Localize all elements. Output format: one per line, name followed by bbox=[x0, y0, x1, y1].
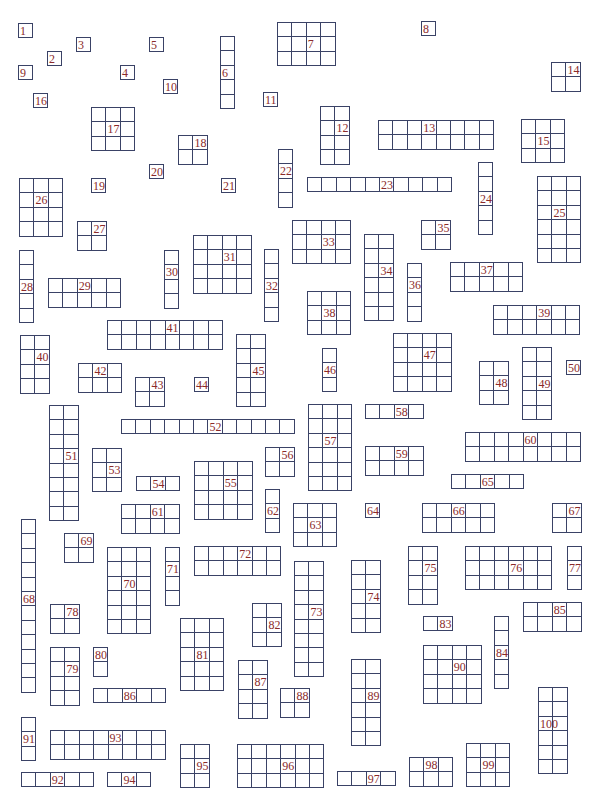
grid-cell[interactable] bbox=[566, 63, 580, 77]
grid-cell[interactable] bbox=[494, 320, 508, 334]
grid-cell[interactable] bbox=[438, 675, 452, 689]
grid-cell[interactable] bbox=[380, 461, 394, 475]
grid-cell[interactable] bbox=[480, 362, 494, 376]
grid-cell[interactable] bbox=[567, 177, 581, 191]
grid-box-4[interactable]: 4 bbox=[120, 65, 135, 80]
grid-cell[interactable] bbox=[423, 518, 437, 532]
grid-cell[interactable] bbox=[264, 93, 278, 107]
grid-cell[interactable] bbox=[366, 561, 380, 575]
grid-cell[interactable] bbox=[367, 772, 381, 786]
grid-cell[interactable] bbox=[365, 235, 379, 249]
grid-cell[interactable] bbox=[494, 391, 508, 405]
grid-cell[interactable] bbox=[295, 605, 309, 619]
grid-cell[interactable] bbox=[309, 448, 323, 462]
grid-box-92[interactable]: 92 bbox=[21, 772, 94, 787]
grid-cell[interactable] bbox=[481, 773, 495, 787]
grid-cell[interactable] bbox=[152, 745, 166, 759]
grid-cell[interactable] bbox=[136, 519, 150, 533]
grid-cell[interactable] bbox=[166, 335, 180, 349]
grid-cell[interactable] bbox=[137, 606, 151, 620]
grid-cell[interactable] bbox=[467, 773, 481, 787]
grid-cell[interactable] bbox=[423, 348, 437, 362]
grid-cell[interactable] bbox=[293, 221, 307, 235]
grid-cell[interactable] bbox=[481, 758, 495, 772]
grid-cell[interactable] bbox=[151, 519, 165, 533]
grid-cell[interactable] bbox=[209, 491, 223, 505]
grid-cell[interactable] bbox=[195, 759, 209, 773]
grid-box-73[interactable]: 73 bbox=[294, 561, 324, 677]
grid-cell[interactable] bbox=[366, 660, 380, 674]
grid-cell[interactable] bbox=[352, 604, 366, 618]
grid-cell[interactable] bbox=[51, 662, 65, 676]
grid-cell[interactable] bbox=[509, 277, 523, 291]
grid-cell[interactable] bbox=[65, 548, 79, 562]
grid-cell[interactable] bbox=[265, 293, 279, 307]
grid-cell[interactable] bbox=[567, 361, 581, 375]
grid-cell[interactable] bbox=[251, 349, 265, 363]
grid-cell[interactable] bbox=[380, 405, 394, 419]
grid-cell[interactable] bbox=[181, 759, 195, 773]
grid-cell[interactable] bbox=[524, 561, 538, 575]
grid-cell[interactable] bbox=[467, 744, 481, 758]
grid-cell[interactable] bbox=[321, 37, 335, 51]
grid-cell[interactable] bbox=[437, 121, 451, 135]
grid-cell[interactable] bbox=[151, 505, 165, 519]
grid-cell[interactable] bbox=[309, 591, 323, 605]
grid-box-63[interactable]: 63 bbox=[293, 503, 337, 547]
grid-cell[interactable] bbox=[466, 504, 480, 518]
grid-cell[interactable] bbox=[224, 561, 238, 575]
grid-box-1[interactable]: 1 bbox=[18, 23, 33, 38]
grid-cell[interactable] bbox=[309, 605, 323, 619]
grid-cell[interactable] bbox=[22, 678, 36, 692]
grid-cell[interactable] bbox=[49, 293, 63, 307]
grid-cell[interactable] bbox=[524, 547, 538, 561]
grid-cell[interactable] bbox=[537, 362, 551, 376]
grid-cell[interactable] bbox=[195, 677, 209, 691]
grid-box-19[interactable]: 19 bbox=[91, 178, 106, 193]
grid-cell[interactable] bbox=[323, 405, 337, 419]
grid-cell[interactable] bbox=[321, 150, 335, 164]
grid-cell[interactable] bbox=[209, 321, 223, 335]
grid-cell[interactable] bbox=[65, 534, 79, 548]
grid-cell[interactable] bbox=[352, 590, 366, 604]
grid-box-100[interactable]: 100 bbox=[538, 687, 568, 774]
grid-cell[interactable] bbox=[494, 306, 508, 320]
grid-cell[interactable] bbox=[453, 675, 467, 689]
grid-cell[interactable] bbox=[480, 391, 494, 405]
grid-cell[interactable] bbox=[136, 420, 150, 434]
grid-box-87[interactable]: 87 bbox=[238, 660, 268, 719]
grid-cell[interactable] bbox=[308, 533, 322, 547]
grid-cell[interactable] bbox=[181, 648, 195, 662]
grid-cell[interactable] bbox=[94, 745, 108, 759]
grid-cell[interactable] bbox=[78, 222, 92, 236]
grid-cell[interactable] bbox=[122, 591, 136, 605]
grid-cell[interactable] bbox=[308, 178, 322, 192]
grid-cell[interactable] bbox=[323, 378, 337, 392]
grid-cell[interactable] bbox=[294, 533, 308, 547]
grid-cell[interactable] bbox=[108, 364, 122, 378]
grid-box-61[interactable]: 61 bbox=[121, 504, 180, 534]
grid-cell[interactable] bbox=[567, 191, 581, 205]
grid-cell[interactable] bbox=[181, 662, 195, 676]
grid-box-38[interactable]: 38 bbox=[307, 291, 351, 335]
grid-cell[interactable] bbox=[223, 420, 237, 434]
grid-cell[interactable] bbox=[238, 505, 252, 519]
grid-cell[interactable] bbox=[495, 646, 509, 660]
grid-cell[interactable] bbox=[538, 603, 552, 617]
grid-cell[interactable] bbox=[439, 758, 453, 772]
grid-cell[interactable] bbox=[151, 335, 165, 349]
grid-cell[interactable] bbox=[567, 433, 581, 447]
grid-box-12[interactable]: 12 bbox=[320, 106, 350, 165]
grid-cell[interactable] bbox=[408, 307, 422, 321]
grid-cell[interactable] bbox=[323, 363, 337, 377]
grid-cell[interactable] bbox=[51, 605, 65, 619]
grid-cell[interactable] bbox=[467, 646, 481, 660]
grid-cell[interactable] bbox=[393, 135, 407, 149]
grid-cell[interactable] bbox=[494, 376, 508, 390]
grid-cell[interactable] bbox=[195, 633, 209, 647]
grid-cell[interactable] bbox=[481, 475, 495, 489]
grid-cell[interactable] bbox=[307, 23, 321, 37]
grid-box-35[interactable]: 35 bbox=[421, 220, 451, 250]
grid-cell[interactable] bbox=[539, 688, 553, 702]
grid-cell[interactable] bbox=[536, 120, 550, 134]
